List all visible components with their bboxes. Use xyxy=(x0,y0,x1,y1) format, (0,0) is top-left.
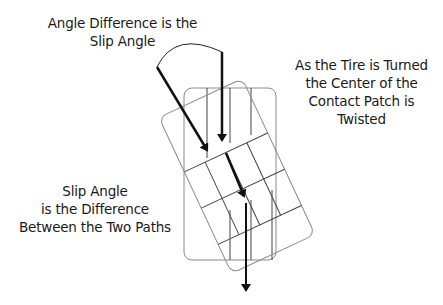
upright-contact-patch xyxy=(184,88,276,260)
twisted-patch-label-line3: Contact Patch is xyxy=(280,92,443,110)
twisted-patch-label-line2: the Center of the xyxy=(280,74,443,92)
twisted-patch-label-line1: As the Tire is Turned xyxy=(280,56,443,74)
twisted-patch-label: As the Tire is Turned the Center of the … xyxy=(280,56,443,128)
slip-angle-label: Angle Difference is the Slip Angle xyxy=(30,14,215,50)
twisted-patch-label-line4: Twisted xyxy=(280,110,443,128)
path-difference-label: Slip Angle is the Difference Between the… xyxy=(0,182,190,236)
heading-arrow xyxy=(157,67,207,150)
path-difference-label-line1: Slip Angle xyxy=(0,182,190,200)
diagram-canvas: Angle Difference is the Slip Angle As th… xyxy=(0,0,443,305)
path-difference-label-line2: is the Difference xyxy=(0,200,190,218)
slip-angle-label-line1: Angle Difference is the xyxy=(30,14,215,32)
path-difference-label-line3: Between the Two Paths xyxy=(0,218,190,236)
contact-center-arrow xyxy=(226,153,244,196)
slip-angle-label-line2: Slip Angle xyxy=(30,32,215,50)
